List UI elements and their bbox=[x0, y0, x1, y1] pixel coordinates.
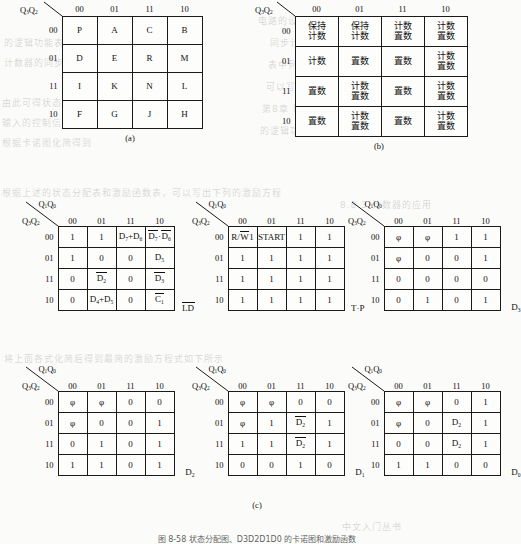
kmap-ld-cell: 1 bbox=[87, 226, 116, 247]
table-a-cell: E bbox=[97, 44, 132, 72]
kmap-ld-grid: Q1Q0Q3Q2000111100011D7+D6D7·D601100D5110… bbox=[22, 200, 175, 311]
kmap-tp-cell: 1 bbox=[315, 289, 344, 310]
kmap-tp-row-header: 10 bbox=[192, 289, 228, 310]
kmap-d1-cell: D2 bbox=[286, 412, 315, 433]
table-a-row-header: 11 bbox=[18, 72, 62, 100]
kmap-tp-block: Q1Q0Q3Q20001111000R/W1START1101111111111… bbox=[192, 200, 345, 311]
table-b-cell: 计数置数 bbox=[424, 16, 467, 46]
kmap-d1-cell: 0 bbox=[286, 391, 315, 412]
table-b-col-header: 01 bbox=[338, 2, 381, 16]
kmap-d0-cell: 1 bbox=[471, 433, 500, 454]
kmap-tp-cell: 1 bbox=[257, 268, 286, 289]
kmap-d1-block: Q1Q0Q3Q20001111000φφ0001φ1D211111D211000… bbox=[192, 365, 345, 476]
kmap-d3-cell: 0 bbox=[471, 268, 500, 289]
kmap-d2-cell: 1 bbox=[58, 454, 87, 475]
subcaption-a: (a) bbox=[62, 133, 198, 143]
kmap-d1-col-header: 10 bbox=[315, 365, 344, 391]
kmap-d0-output-label: D0 bbox=[511, 467, 520, 478]
kmap-d0-row-header: 00 bbox=[348, 391, 384, 412]
kmap-d2-cell: φ bbox=[87, 391, 116, 412]
table-a-row-header: 01 bbox=[18, 44, 62, 72]
kmap-d0-left-axis-label: Q3Q2 bbox=[348, 381, 366, 391]
kmap-ld-row-header: 00 bbox=[22, 226, 58, 247]
table-a-cell: P bbox=[62, 16, 97, 44]
kmap-d2-row-header: 11 bbox=[22, 433, 58, 454]
kmap-d0-row-header: 01 bbox=[348, 412, 384, 433]
table-b-cell: 计数置数 bbox=[338, 76, 381, 106]
kmap-d3-cell: 0 bbox=[442, 289, 471, 310]
kmap-d0-block: Q1Q0Q3Q20001111000φφ0101φ0D211100D211011… bbox=[348, 365, 501, 476]
kmap-d3-output-label: D3 bbox=[511, 302, 520, 313]
kmap-d1-row-header: 10 bbox=[192, 454, 228, 475]
kmap-ld-cell: 0 bbox=[58, 268, 87, 289]
kmap-d3-cell: 1 bbox=[471, 247, 500, 268]
kmap-ld-cell: D7·D6 bbox=[145, 226, 174, 247]
kmap-d0-col-header: 10 bbox=[471, 365, 500, 391]
kmap-d3-cell: 0 bbox=[413, 268, 442, 289]
kmap-d3-grid: Q1Q0Q3Q20001111000φφ1101φ001110000100101 bbox=[348, 200, 501, 311]
kmap-tp-col-header: 11 bbox=[286, 200, 315, 226]
kmap-d3-col-header: 00 bbox=[384, 200, 413, 226]
kmap-d3-cell: 0 bbox=[384, 268, 413, 289]
kmap-d0-corner: Q1Q0Q3Q2 bbox=[348, 365, 384, 391]
table-b-corner: Q3Q2 bbox=[255, 2, 295, 16]
kmap-d0-cell: 1 bbox=[471, 391, 500, 412]
kmap-d0-cell: 1 bbox=[471, 412, 500, 433]
kmap-d2-cell: φ bbox=[58, 412, 87, 433]
table-b-cell: 置数 bbox=[338, 46, 381, 76]
kmap-d0-cell: D2 bbox=[442, 412, 471, 433]
table-a-cell: I bbox=[62, 72, 97, 100]
kmap-d3-cell: 0 bbox=[442, 247, 471, 268]
table-b-body: 00保持计数保持计数计数置数计数置数01计数置数置数计数置数11置数计数置数置数… bbox=[255, 16, 467, 136]
kmap-ld-cell: 0 bbox=[116, 289, 145, 310]
kmap-d3-cell: 1 bbox=[471, 289, 500, 310]
table-a-corner: Q3Q2 bbox=[18, 2, 62, 16]
kmap-d1-cell: 0 bbox=[257, 454, 286, 475]
kmap-d2-col-header: 01 bbox=[87, 365, 116, 391]
table-a-cell: J bbox=[132, 100, 167, 128]
kmap-tp-cell: 1 bbox=[257, 247, 286, 268]
kmap-ld-col-header: 01 bbox=[87, 200, 116, 226]
ghost-text: 根据上述的状态分配表和激励函数表，可以写出下列的激励方程 bbox=[2, 186, 282, 199]
kmap-ld-col-header: 11 bbox=[116, 200, 145, 226]
table-a-cell: C bbox=[132, 16, 167, 44]
kmap-d1-cell: 0 bbox=[315, 391, 344, 412]
kmap-ld-cell: 1 bbox=[58, 226, 87, 247]
kmap-d2-cell: 0 bbox=[116, 433, 145, 454]
table-a-cell: L bbox=[167, 72, 202, 100]
kmap-d1-cell: D2 bbox=[286, 433, 315, 454]
kmap-d0-col-header: 01 bbox=[413, 365, 442, 391]
table-a-grid: Q3Q2 00 01 11 10 00 P A C B 01 D E R M bbox=[18, 2, 203, 129]
kmap-d2-cell: 0 bbox=[87, 412, 116, 433]
table-a-cell: N bbox=[132, 72, 167, 100]
subcaption-c: (c) bbox=[0, 500, 514, 510]
kmap-d0-cell: 0 bbox=[413, 412, 442, 433]
kmap-ld-top-axis-label: Q1Q0 bbox=[38, 199, 56, 209]
kmap-d1-top-axis-label: Q1Q0 bbox=[208, 364, 226, 374]
kmap-d0-cell: 0 bbox=[442, 391, 471, 412]
kmap-tp-cell: 1 bbox=[228, 247, 257, 268]
table-b-cell: 置数 bbox=[295, 76, 338, 106]
kmap-ld-left-axis-label: Q3Q2 bbox=[22, 216, 40, 226]
table-a-cell: H bbox=[167, 100, 202, 128]
kmap-d0-grid: Q1Q0Q3Q20001111000φφ0101φ0D211100D211011… bbox=[348, 365, 501, 476]
kmap-tp-row-header: 01 bbox=[192, 247, 228, 268]
table-a-col-header: 11 bbox=[132, 2, 167, 16]
kmap-d3-row-header: 01 bbox=[348, 247, 384, 268]
kmap-d1-grid: Q1Q0Q3Q20001111000φφ0001φ1D211111D211000… bbox=[192, 365, 345, 476]
table-a-cell: F bbox=[62, 100, 97, 128]
kmap-tp-col-header: 01 bbox=[257, 200, 286, 226]
kmap-d1-cell: 0 bbox=[315, 454, 344, 475]
kmap-ld-block: Q1Q0Q3Q2000111100011D7+D6D7·D601100D5110… bbox=[22, 200, 175, 311]
kmap-d1-cell: 1 bbox=[315, 433, 344, 454]
kmap-d0-cell: D2 bbox=[442, 433, 471, 454]
kmap-d3-block: Q1Q0Q3Q20001111000φφ1101φ001110000100101… bbox=[348, 200, 501, 311]
table-b-col-header: 10 bbox=[424, 2, 467, 16]
kmap-d1-left-axis-label: Q3Q2 bbox=[192, 381, 210, 391]
kmap-d0-cell: 0 bbox=[384, 433, 413, 454]
table-b-cell: 计数置数 bbox=[424, 106, 467, 136]
kmap-ld-col-header: 00 bbox=[58, 200, 87, 226]
kmap-d1-row-header: 00 bbox=[192, 391, 228, 412]
kmap-d3-cell: 1 bbox=[471, 226, 500, 247]
kmap-ld-cell: D7+D6 bbox=[116, 226, 145, 247]
